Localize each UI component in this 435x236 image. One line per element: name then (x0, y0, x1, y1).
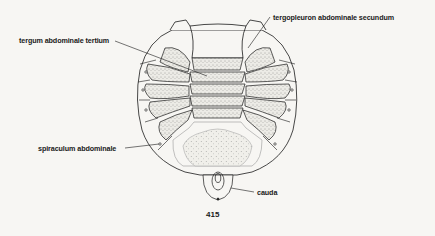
label-spiraculum-abdominale: spiraculum abdominale (38, 144, 116, 153)
figure-number: 415 (206, 210, 219, 219)
label-tergopleuron-abdominale-secundum: tergopleuron abdominale secundum (273, 13, 394, 22)
label-cauda: cauda (257, 188, 277, 197)
label-tergum-abdominale-tertium: tergum abdominale tertium (19, 36, 109, 45)
central-terga (190, 58, 245, 118)
cauda-structure (203, 172, 233, 200)
